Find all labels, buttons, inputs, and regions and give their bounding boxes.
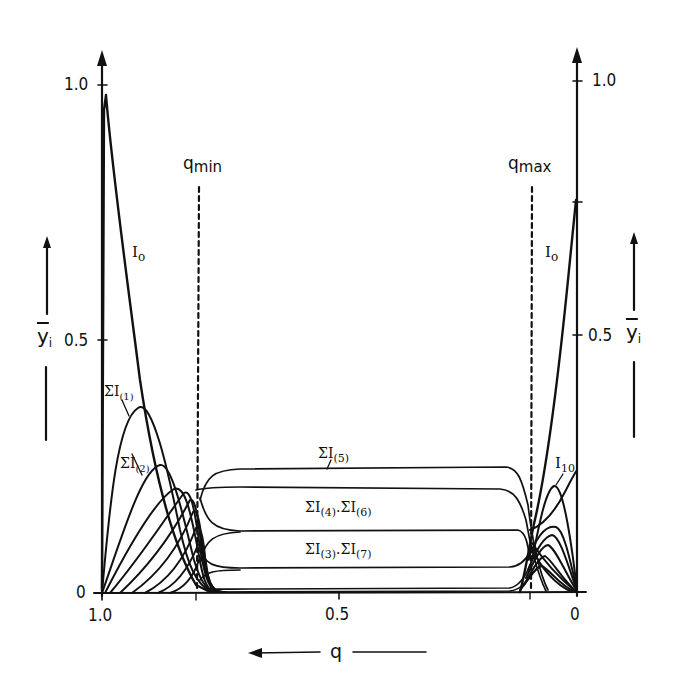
- label-i10-sub: 10: [561, 462, 575, 475]
- y-tick-right-1: 1.0: [592, 72, 616, 89]
- label-sum-i7: .ΣI: [336, 541, 356, 557]
- y-label-left-sub: i: [49, 336, 52, 350]
- label-sum-i3-i7: ΣI(3).ΣI(7): [305, 542, 372, 560]
- label-leaders: [122, 400, 563, 485]
- qmin-label-sub: min: [194, 158, 222, 176]
- label-sum-i3: ΣI: [305, 541, 320, 557]
- label-sum-i1-main: ΣI: [104, 383, 119, 399]
- label-sum-i5-main: ΣI: [318, 445, 333, 461]
- x-tick-1: 1.0: [88, 607, 112, 624]
- qmax-label-main: q: [508, 153, 519, 173]
- label-sum-i1-sub: (1): [119, 391, 133, 402]
- label-io-right-sub: o: [551, 250, 558, 264]
- label-sum-i2-main: ΣI: [120, 455, 135, 471]
- y-label-right-main: y: [626, 320, 638, 344]
- y-label-left: yi: [37, 326, 52, 349]
- label-sum-i4-i6: ΣI(4).ΣI(6): [305, 500, 372, 518]
- x-axis: [94, 592, 586, 600]
- chart-canvas: [0, 0, 675, 694]
- x-tick-0: 0: [570, 606, 580, 623]
- label-sum-i2: ΣI(2): [120, 456, 150, 474]
- y-tick-left-05: 0.5: [64, 332, 88, 349]
- label-sum-i5: ΣI(5): [318, 446, 349, 464]
- label-sum-i3-sub: (3): [320, 548, 336, 561]
- qmax-label-sub: max: [519, 158, 552, 176]
- right-y-axis: [572, 47, 582, 596]
- y-tick-right-05: 0.5: [588, 327, 612, 344]
- label-io-right: Io: [545, 245, 558, 263]
- x-axis-label: q: [330, 642, 342, 661]
- y-label-right: yi: [626, 322, 641, 345]
- plateau-curves: [196, 467, 548, 592]
- label-sum-i6: .ΣI: [336, 499, 356, 515]
- label-io-left-sub: o: [138, 250, 145, 264]
- qmin-label-main: q: [183, 153, 194, 173]
- y-label-left-main: y: [37, 324, 49, 348]
- label-sum-i4-sub: (4): [320, 506, 336, 519]
- label-sum-i2-sub: (2): [135, 463, 149, 474]
- qmax-label: qmax: [508, 155, 551, 175]
- qmin-label: qmin: [183, 155, 222, 175]
- label-sum-i4: ΣI: [305, 499, 320, 515]
- label-sum-i6-sub: (6): [356, 506, 372, 519]
- label-io-left: Io: [132, 245, 145, 263]
- label-sum-i5-sub: (5): [333, 452, 349, 465]
- y-label-right-sub: i: [638, 332, 641, 346]
- label-sum-i7-sub: (7): [356, 548, 372, 561]
- y-tick-left-1: 1.0: [64, 76, 88, 93]
- label-i10: I10: [555, 456, 575, 474]
- x-tick-05: 0.5: [325, 606, 349, 623]
- y-tick-left-0: 0: [76, 584, 86, 601]
- label-sum-i1: ΣI(1): [104, 384, 134, 402]
